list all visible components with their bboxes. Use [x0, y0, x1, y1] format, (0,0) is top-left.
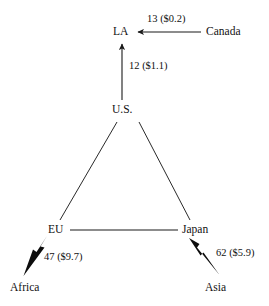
- edge-japan-to-asia: [189, 238, 220, 275]
- node-asia: Asia: [205, 282, 226, 294]
- edge-label-eu-to-africa: 47 ($9.7): [44, 252, 83, 263]
- node-africa: Africa: [10, 282, 39, 294]
- node-la: LA: [113, 26, 128, 38]
- edge-layer: [0, 0, 269, 306]
- edge-label-canada-to-la: 13 ($0.2): [147, 14, 186, 25]
- edge-label-japan-to-asia: 62 ($5.9): [216, 248, 255, 259]
- node-canada: Canada: [206, 26, 240, 38]
- edge-label-us-to-la: 12 ($1.1): [129, 61, 168, 72]
- edge-us-to-japan: [139, 122, 190, 220]
- node-japan: Japan: [182, 224, 208, 236]
- node-eu: EU: [48, 224, 63, 236]
- edge-us-to-eu: [60, 122, 117, 220]
- trade-flow-diagram: LA Canada U.S. EU Japan Africa Asia 13 (…: [0, 0, 269, 306]
- node-us: U.S.: [112, 104, 132, 116]
